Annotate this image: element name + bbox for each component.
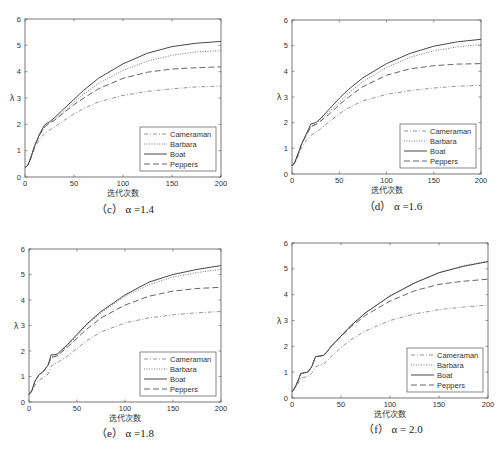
x-tick-label: 50 <box>70 179 78 188</box>
legend-entry: Barbara <box>170 140 198 149</box>
legend-entry: Peppers <box>170 385 198 394</box>
y-tick-label: 4 <box>284 67 288 76</box>
y-tick-label: 6 <box>284 16 288 25</box>
x-tick-label: 100 <box>119 404 132 413</box>
legend-entry: Cameraman <box>437 351 478 360</box>
y-tick-label: 4 <box>17 67 21 76</box>
legend-entry: Cameraman <box>170 130 211 139</box>
y-tick-label: 2 <box>284 118 288 127</box>
x-tick-label: 150 <box>166 179 179 188</box>
legend-entry: Barbara <box>437 361 465 370</box>
y-tick-label: 5 <box>17 41 21 50</box>
x-tick-label: 0 <box>27 404 31 413</box>
legend: CameramanBarbaraBoatPeppers <box>140 127 216 171</box>
x-tick-label: 50 <box>73 404 81 413</box>
y-tick-label: 1 <box>17 146 21 155</box>
y-tick-label: 2 <box>284 342 288 351</box>
x-tick-label: 50 <box>335 176 343 185</box>
legend-entry: Boat <box>170 150 186 159</box>
x-tick-label: 150 <box>433 400 446 409</box>
legend-entry: Barbara <box>170 365 198 374</box>
legend-entry: Barbara <box>430 137 458 146</box>
y-axis-label: λ <box>277 93 282 102</box>
legend-entry: Boat <box>430 147 446 156</box>
legend-entry: Peppers <box>170 160 198 169</box>
figure: 0501001502000123456迭代次数λCameramanBarbara… <box>0 0 503 457</box>
x-tick-label: 200 <box>475 176 488 185</box>
y-tick-label: 1 <box>284 368 288 377</box>
legend-entry: Cameraman <box>170 355 211 364</box>
y-tick-label: 5 <box>21 270 25 279</box>
y-tick-label: 5 <box>284 41 288 50</box>
chart-e: 0501001502000123456迭代次数λCameramanBarbara… <box>14 245 228 439</box>
legend-entry: Cameraman <box>430 127 471 136</box>
legend-entry: Peppers <box>430 157 458 166</box>
y-axis-label: λ <box>10 94 15 103</box>
x-tick-label: 0 <box>290 176 294 185</box>
x-tick-label: 0 <box>23 179 27 188</box>
y-tick-label: 0 <box>284 394 288 403</box>
y-axis-label: λ <box>277 317 282 326</box>
y-tick-label: 3 <box>21 321 25 330</box>
legend: CameramanBarbaraBoatPeppers <box>407 348 483 392</box>
legend-entry: Peppers <box>437 381 465 390</box>
x-tick-label: 0 <box>290 400 294 409</box>
x-tick-label: 150 <box>167 404 180 413</box>
y-tick-label: 5 <box>284 264 288 273</box>
chart-d: 0501001502000123456迭代次数λCameramanBarbara… <box>277 16 488 212</box>
y-tick-label: 4 <box>284 290 288 299</box>
x-axis-label: 迭代次数 <box>374 409 406 419</box>
chart-f: 0501001502000123456迭代次数λCameramanBarbara… <box>277 239 495 435</box>
x-tick-label: 150 <box>427 176 440 185</box>
y-tick-label: 0 <box>17 173 21 182</box>
chart-caption: （c） α =1.4 <box>96 203 155 215</box>
y-tick-label: 3 <box>284 93 288 102</box>
y-tick-label: 3 <box>17 94 21 103</box>
chart-c: 0501001502000123456迭代次数λCameramanBarbara… <box>10 15 228 215</box>
y-axis-label: λ <box>14 322 19 331</box>
x-axis-label: 迭代次数 <box>107 188 139 198</box>
y-tick-label: 6 <box>17 15 21 24</box>
x-axis-label: 迭代次数 <box>371 185 403 195</box>
y-tick-label: 6 <box>284 239 288 248</box>
chart-caption: （d） α =1.6 <box>364 200 423 212</box>
y-tick-label: 1 <box>284 144 288 153</box>
x-axis-label: 迭代次数 <box>109 413 141 423</box>
x-tick-label: 100 <box>380 176 393 185</box>
x-tick-label: 200 <box>482 400 495 409</box>
legend: CameramanBarbaraBoatPeppers <box>140 352 216 396</box>
y-tick-label: 6 <box>21 245 25 254</box>
legend-entry: Boat <box>170 375 186 384</box>
x-tick-label: 50 <box>337 400 345 409</box>
y-tick-label: 0 <box>21 398 25 407</box>
y-tick-label: 4 <box>21 296 25 305</box>
legend-entry: Boat <box>437 371 453 380</box>
y-tick-label: 1 <box>21 372 25 381</box>
chart-caption: （f） α = 2.0 <box>363 423 423 435</box>
y-tick-label: 2 <box>17 120 21 129</box>
legend: CameramanBarbaraBoatPeppers <box>400 124 476 168</box>
x-tick-label: 200 <box>215 404 228 413</box>
x-tick-label: 100 <box>384 400 397 409</box>
x-tick-label: 100 <box>117 179 130 188</box>
chart-caption: （e） α =1.8 <box>96 427 155 439</box>
y-tick-label: 2 <box>21 347 25 356</box>
y-tick-label: 3 <box>284 316 288 325</box>
x-tick-label: 200 <box>215 179 228 188</box>
y-tick-label: 0 <box>284 170 288 179</box>
